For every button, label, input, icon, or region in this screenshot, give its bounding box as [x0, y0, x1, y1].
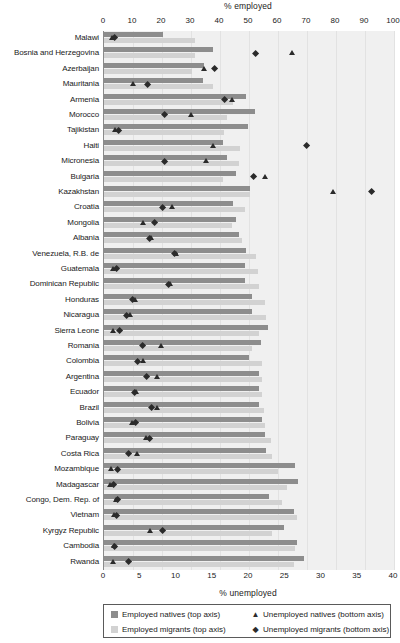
axis-tick: 0 [101, 571, 105, 580]
bar-employed-natives [104, 278, 245, 283]
country-label: Ecuador [0, 387, 99, 396]
country-label: Colombia [0, 356, 99, 365]
chart-row [104, 200, 394, 215]
country-label: Madagascar [0, 480, 99, 489]
chart-row [104, 46, 394, 61]
bar-employed-migrants [104, 100, 233, 105]
chart-row [104, 216, 394, 231]
bar-employed-migrants [104, 269, 258, 274]
marker-unemployed-natives [147, 528, 153, 533]
country-label: Brazil [0, 403, 99, 412]
chart-row [104, 370, 394, 385]
bar-employed-migrants [104, 284, 259, 289]
axis-tick: 50 [244, 16, 253, 25]
square-icon [111, 611, 118, 618]
axis-tick: 10 [171, 571, 180, 580]
country-label: Paraguay [0, 433, 99, 442]
country-label: Armenia [0, 95, 99, 104]
marker-unemployed-natives [110, 559, 116, 564]
plot-area [103, 31, 394, 570]
bar-employed-migrants [104, 146, 240, 151]
axis-tick: 35 [352, 571, 361, 580]
legend-item-employed-migrants: Employed migrants (top axis) [111, 625, 249, 634]
triangle-icon: ▲ [251, 611, 260, 619]
country-label: Azerbaijan [0, 64, 99, 73]
marker-unemployed-natives [330, 189, 336, 194]
legend-row: Employed natives (top axis) ▲ Unemployed… [104, 607, 390, 622]
bar-employed-natives [104, 78, 203, 83]
chart-row [104, 478, 394, 493]
marker-unemployed-natives [130, 81, 136, 86]
bar-employed-migrants [104, 300, 265, 305]
axis-tick: 70 [302, 16, 311, 25]
country-label: Nicaragua [0, 310, 99, 319]
marker-unemployed-natives [158, 343, 164, 348]
axis-tick: 30 [316, 571, 325, 580]
bar-employed-migrants [104, 84, 213, 89]
bar-employed-natives [104, 355, 249, 360]
bar-employed-migrants [104, 469, 278, 474]
country-label: Sierra Leone [0, 326, 99, 335]
bar-employed-migrants [104, 346, 252, 351]
country-label: Romania [0, 341, 99, 350]
country-label: Congo, Dem. Rep. of [0, 495, 99, 504]
country-label: Venezuela, R.B. de [0, 249, 99, 258]
bar-employed-migrants [104, 192, 250, 197]
bar-employed-migrants [104, 546, 295, 551]
bar-employed-natives [104, 386, 259, 391]
bar-employed-natives [104, 417, 262, 422]
marker-unemployed-migrants [303, 142, 310, 149]
chart-row [104, 293, 394, 308]
top-axis-ticks: 0102030405060708090100 [0, 16, 394, 28]
country-label: Micronesia [0, 156, 99, 165]
marker-unemployed-natives [289, 50, 295, 55]
marker-unemployed-migrants [252, 50, 259, 57]
country-label: Kyrgyz Republic [0, 526, 99, 535]
chart-row [104, 555, 394, 570]
chart-row [104, 308, 394, 323]
chart-row [104, 447, 394, 462]
axis-tick: 20 [157, 16, 166, 25]
bar-employed-natives [104, 340, 261, 345]
legend-item-employed-natives: Employed natives (top axis) [111, 610, 249, 619]
bar-employed-natives [104, 217, 236, 222]
square-icon [111, 626, 118, 633]
marker-unemployed-migrants [211, 65, 218, 72]
legend-item-unemployed-migrants: ◆ Unemployed migrants (bottom axis) [251, 625, 389, 634]
chart-row [104, 339, 394, 354]
bar-employed-natives [104, 232, 239, 237]
chart-row [104, 77, 394, 92]
marker-unemployed-natives [134, 451, 140, 456]
bar-employed-migrants [104, 130, 224, 135]
category-labels: MalawiBosnia and HerzegovinaAzerbaijanMa… [0, 31, 99, 570]
marker-unemployed-natives [169, 204, 175, 209]
bar-employed-natives [104, 325, 268, 330]
bar-employed-natives [104, 540, 297, 545]
bottom-axis-title: % unemployed [103, 588, 393, 598]
axis-tick: 25 [280, 571, 289, 580]
marker-unemployed-natives [201, 66, 207, 71]
chart-row [104, 431, 394, 446]
chart-row [104, 277, 394, 292]
chart-row [104, 354, 394, 369]
chart-row [104, 462, 394, 477]
bar-employed-natives [104, 556, 304, 561]
axis-tick: 30 [186, 16, 195, 25]
chart-row [104, 401, 394, 416]
chart-row [104, 385, 394, 400]
bar-employed-natives [104, 509, 294, 514]
country-label: Cambodia [0, 541, 99, 550]
chart-row [104, 154, 394, 169]
chart-row [104, 93, 394, 108]
marker-unemployed-migrants [250, 173, 257, 180]
bar-employed-natives [104, 140, 223, 145]
bar-employed-migrants [104, 438, 271, 443]
bar-employed-migrants [104, 177, 223, 182]
legend: Employed natives (top axis) ▲ Unemployed… [103, 604, 391, 638]
bar-employed-natives [104, 47, 213, 52]
bar-employed-natives [104, 525, 284, 530]
bar-employed-natives [104, 371, 259, 376]
chart-row [104, 262, 394, 277]
bar-employed-migrants [104, 238, 242, 243]
legend-row: Employed migrants (top axis) ◆ Unemploye… [104, 622, 390, 637]
